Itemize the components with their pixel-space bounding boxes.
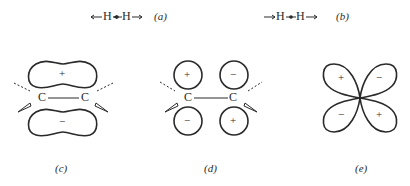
diagram-drawing bbox=[0, 0, 410, 186]
panel-c-carbon-right: C bbox=[81, 90, 89, 105]
panel-d-top-left-sign: + bbox=[184, 68, 190, 80]
panel-d-carbon-right: C bbox=[229, 90, 237, 105]
panel-e-label-letter: e bbox=[359, 162, 364, 174]
panel-e-top-left-sign: + bbox=[338, 71, 344, 83]
panel-d-bottom-right-sign: + bbox=[230, 114, 236, 126]
panel-a-label-letter: a bbox=[158, 10, 164, 22]
panel-a-label: (a) bbox=[154, 10, 167, 22]
panel-e-top-right-sign: − bbox=[376, 71, 382, 83]
panel-c-label-letter: c bbox=[59, 162, 64, 174]
panel-d-bottom-left-sign: − bbox=[184, 114, 190, 126]
panel-b-atom-2: H bbox=[296, 9, 305, 24]
panel-b-label-letter: b bbox=[340, 10, 346, 22]
panel-a-atom-2: H bbox=[122, 9, 131, 24]
panel-d-carbon-left: C bbox=[184, 90, 192, 105]
panel-c-label: (c) bbox=[55, 162, 67, 174]
panel-e-bottom-right-sign: + bbox=[376, 108, 382, 120]
panel-d-top-right-sign: − bbox=[230, 68, 236, 80]
panel-b-atom-1: H bbox=[276, 9, 285, 24]
panel-c-bottom-sign: − bbox=[59, 115, 65, 127]
panel-d-label-letter: d bbox=[208, 162, 214, 174]
panel-b-label: (b) bbox=[336, 10, 349, 22]
panel-a-atom-1: H bbox=[103, 9, 112, 24]
panel-e-bottom-left-sign: − bbox=[338, 108, 344, 120]
panel-e-label: (e) bbox=[355, 162, 367, 174]
d-orbital bbox=[323, 64, 396, 132]
panel-c-top-sign: + bbox=[59, 67, 65, 79]
panel-d-label: (d) bbox=[204, 162, 217, 174]
panel-c-carbon-left: C bbox=[38, 90, 46, 105]
